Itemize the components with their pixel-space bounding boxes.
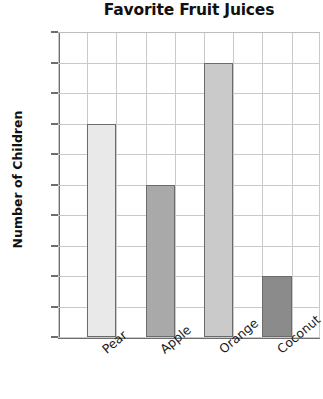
y-axis-tick: [51, 214, 58, 216]
y-axis-tick: [51, 153, 58, 155]
plot-area: 012345678910PearAppleOrangeCoconut: [58, 32, 320, 337]
y-axis-tick: [51, 123, 58, 125]
grid-line-horizontal: [58, 63, 320, 64]
bar-apple: [146, 185, 175, 338]
y-axis-tick: [51, 306, 58, 308]
y-axis-tick: [51, 184, 58, 186]
y-axis-tick: [51, 92, 58, 94]
y-axis-tick: [51, 245, 58, 247]
bar-coconut: [262, 276, 291, 337]
bar-orange: [204, 63, 233, 338]
grid-line-horizontal: [58, 32, 320, 33]
y-axis-tick: [51, 336, 58, 338]
bar-pear: [87, 124, 116, 338]
y-axis-tick: [51, 275, 58, 277]
y-axis-title: Number of Children: [10, 90, 25, 270]
grid-line-horizontal: [58, 93, 320, 94]
y-axis-tick: [51, 31, 58, 33]
y-axis-tick: [51, 62, 58, 64]
chart-title: Favorite Fruit Juices: [58, 1, 320, 19]
